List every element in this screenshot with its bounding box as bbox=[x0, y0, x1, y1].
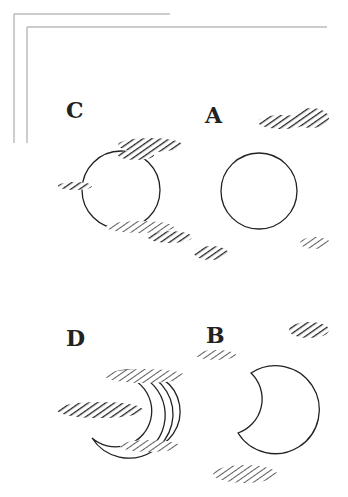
cloud-icon bbox=[196, 350, 236, 360]
drawing-canvas bbox=[0, 0, 348, 497]
cloud-icon bbox=[57, 402, 143, 418]
panel-a bbox=[221, 108, 330, 249]
illustration: C A D B bbox=[0, 0, 348, 497]
cloud-icon bbox=[118, 150, 154, 160]
cloud-icon bbox=[213, 465, 277, 483]
cloud-icon bbox=[58, 182, 92, 190]
crescent-moon-b bbox=[238, 366, 319, 454]
cloud-icon bbox=[106, 221, 174, 233]
cloud-icon bbox=[300, 237, 330, 249]
cloud-icon bbox=[118, 138, 182, 152]
panel-c bbox=[58, 138, 228, 260]
cloud-icon bbox=[194, 246, 228, 260]
cloud-icon bbox=[293, 108, 329, 128]
panel-label-d: D bbox=[66, 327, 85, 349]
panel-label-c: C bbox=[66, 99, 84, 121]
panel-d bbox=[57, 369, 185, 458]
cloud-icon bbox=[105, 369, 185, 383]
cloud-icon bbox=[148, 231, 192, 243]
cloud-icon bbox=[289, 322, 329, 338]
full-moon-c bbox=[82, 151, 160, 229]
full-moon-a bbox=[221, 153, 297, 229]
panel-label-a: A bbox=[205, 104, 222, 126]
panel-label-b: B bbox=[206, 324, 225, 346]
cloud-icon bbox=[120, 440, 180, 452]
